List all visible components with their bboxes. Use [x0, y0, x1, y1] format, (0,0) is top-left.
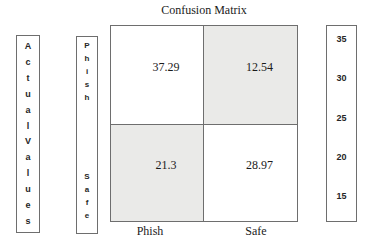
row-label-phish: P h i s h — [84, 42, 89, 102]
row-label-safe-letter: f — [86, 199, 89, 207]
y-axis-title-letter: u — [25, 90, 31, 99]
y-axis-title-letter: l — [27, 169, 30, 178]
cell-value: 21.3 — [156, 158, 177, 173]
row-label-safe-letter: e — [85, 212, 89, 220]
x-axis-label-safe: Safe — [216, 224, 296, 239]
scale-tick: 30 — [336, 74, 346, 83]
row-label-safe: S a f e — [84, 173, 89, 220]
y-axis-title-letter: a — [25, 153, 30, 162]
y-axis-title-letter: e — [25, 201, 30, 210]
y-axis-title-letter: c — [25, 58, 30, 67]
y-axis-title-letter: A — [25, 42, 32, 51]
y-axis-title-letter: u — [25, 185, 31, 194]
cell-actual-safe-pred-safe: 28.97 — [203, 124, 297, 221]
y-axis-title-letter: a — [25, 106, 30, 115]
cell-actual-phish-pred-phish: 37.29 — [111, 26, 203, 124]
y-axis-title-letter: l — [27, 122, 30, 131]
cell-value: 37.29 — [153, 60, 180, 75]
row-label-safe-letter: S — [84, 173, 89, 181]
row-label-phish-letter: h — [85, 55, 90, 63]
cell-value: 28.97 — [246, 158, 273, 173]
row-label-phish-letter: s — [85, 81, 89, 89]
row-label-safe-letter: a — [85, 186, 89, 194]
cell-actual-safe-pred-phish: 21.3 — [111, 124, 203, 221]
scale-tick: 15 — [336, 192, 346, 201]
confusion-matrix-grid: 37.29 12.54 21.3 28.97 — [110, 25, 298, 222]
row-labels-box: P h i s h S a f e — [76, 36, 98, 234]
y-axis-title-box: A c t u a l V a l u e s — [16, 35, 40, 233]
row-label-phish-letter: P — [84, 42, 89, 50]
scale-tick: 25 — [336, 114, 346, 123]
x-axis-label-phish: Phish — [110, 224, 190, 239]
row-label-phish-letter: h — [85, 94, 90, 102]
y-axis-title-letter: s — [25, 217, 30, 226]
row-label-phish-letter: i — [86, 68, 88, 76]
cell-actual-phish-pred-safe: 12.54 — [203, 26, 297, 124]
value-scale-box: 35 30 25 20 15 — [326, 25, 357, 222]
chart-title: Confusion Matrix — [110, 3, 298, 18]
confusion-matrix-figure: Confusion Matrix A c t u a l V a l u e s… — [0, 0, 373, 245]
y-axis-title-letter: V — [25, 137, 31, 146]
y-axis-title-letter: t — [27, 74, 30, 83]
scale-tick: 35 — [336, 35, 346, 44]
cell-value: 12.54 — [246, 60, 273, 75]
scale-tick: 20 — [336, 153, 346, 162]
